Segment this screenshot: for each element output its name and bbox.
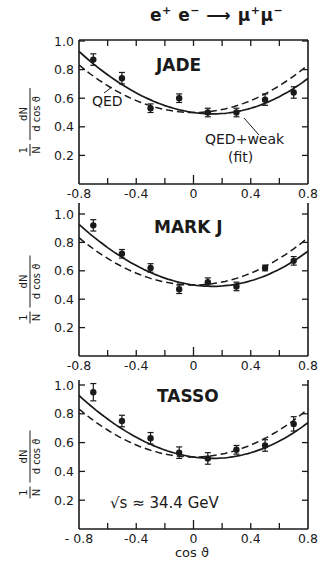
x-tick-label: 0.8	[298, 531, 318, 546]
plot-canvas: -0.8-0.400.40.80.20.40.60.81.0JADE1NdNd …	[0, 0, 334, 579]
x-axis-label: cos ϑ	[175, 545, 209, 560]
data-point	[176, 285, 182, 294]
y-tick-label: 0.6	[54, 263, 74, 278]
y-tick-label: 0.2	[54, 493, 74, 508]
qed-weak-annotation: QED+weak	[205, 131, 285, 147]
data-point	[290, 87, 296, 98]
y-axis-label: 1NdNd cos ϑ	[18, 431, 42, 499]
svg-text:dN: dN	[18, 450, 29, 464]
y-tick-label: 0.2	[54, 148, 74, 163]
data-point	[90, 54, 96, 65]
svg-text:d cos ϑ: d cos ϑ	[31, 96, 42, 132]
y-tick-label: 0.8	[54, 406, 74, 421]
qed-curve	[79, 409, 308, 457]
svg-text:N: N	[31, 489, 42, 496]
data-point	[205, 108, 211, 117]
svg-text:d cos ϑ: d cos ϑ	[31, 439, 42, 475]
svg-text:1: 1	[18, 489, 29, 495]
data-point	[233, 108, 239, 117]
y-tick-label: 0.4	[54, 292, 74, 307]
y-axis-label: 1NdNd cos ϑ	[18, 256, 42, 324]
svg-text:dN: dN	[18, 275, 29, 289]
figure: e+ e− ⟶ μ+μ− -0.8-0.400.40.80.20.40.60.8…	[0, 0, 334, 579]
x-tick-label: 0.8	[298, 186, 318, 201]
x-tick-label: -0.8	[67, 358, 91, 373]
qed-curve	[79, 238, 308, 285]
panel-tasso: - 0.8-0.400.40.80.20.40.60.81.0TASSO1NdN…	[18, 378, 318, 547]
y-tick-label: 1.0	[54, 207, 74, 222]
data-point	[233, 445, 239, 454]
x-tick-label: 0.4	[241, 358, 261, 373]
svg-text:N: N	[31, 314, 42, 321]
x-tick-label: 0.4	[241, 186, 261, 201]
svg-text:N: N	[31, 146, 42, 153]
x-tick-label: -0.4	[124, 186, 148, 201]
data-point	[119, 415, 125, 427]
svg-text:1: 1	[18, 147, 29, 153]
panel-jade: -0.8-0.400.40.80.20.40.60.81.0JADE1NdNd …	[18, 34, 318, 202]
data-point	[205, 453, 211, 465]
y-tick-label: 1.0	[54, 34, 74, 49]
svg-text:d cos ϑ: d cos ϑ	[31, 264, 42, 300]
data-point	[176, 94, 182, 103]
panel-mark-j: -0.8-0.400.40.80.20.40.60.81.0MARK J1NdN…	[18, 203, 318, 373]
y-tick-label: 0.4	[54, 464, 74, 479]
x-tick-label: -0.4	[124, 358, 148, 373]
panel-title: JADE	[155, 55, 201, 75]
panel-title: TASSO	[157, 386, 219, 406]
y-tick-label: 0.8	[54, 235, 74, 250]
x-tick-label: 0	[190, 531, 198, 546]
y-tick-label: 0.6	[54, 91, 74, 106]
y-tick-label: 0.2	[54, 320, 74, 335]
x-tick-label: 0	[190, 186, 198, 201]
data-point	[290, 257, 296, 266]
x-tick-label: - 0.8	[65, 531, 93, 546]
x-tick-label: 0	[190, 358, 198, 373]
fit-annotation: (fit)	[228, 149, 253, 165]
y-tick-label: 0.6	[54, 435, 74, 450]
panel-title: MARK J	[154, 217, 223, 237]
svg-text:dN: dN	[18, 107, 29, 121]
data-point	[262, 265, 268, 271]
data-point	[147, 433, 153, 445]
x-tick-label: 0.8	[298, 358, 318, 373]
svg-text:1: 1	[18, 314, 29, 320]
x-tick-label: 0.4	[241, 531, 261, 546]
energy-annotation: √s ≈ 34.4 GeV	[110, 494, 219, 512]
y-tick-label: 1.0	[54, 378, 74, 393]
y-tick-label: 0.4	[54, 119, 74, 134]
x-tick-label: -0.8	[67, 186, 91, 201]
y-axis-label: 1NdNd cos ϑ	[18, 88, 42, 156]
qed-annotation: QED	[92, 93, 123, 109]
x-tick-label: -0.4	[124, 531, 148, 546]
y-tick-label: 0.8	[54, 62, 74, 77]
data-point	[90, 384, 96, 401]
data-point	[90, 220, 96, 231]
